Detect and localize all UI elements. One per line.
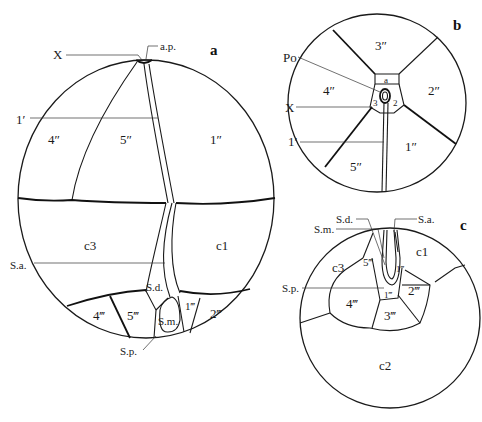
- label-3pp: 3″: [375, 38, 387, 53]
- annotation-1prime: 1′: [16, 112, 26, 127]
- sulcus: [382, 230, 400, 285]
- panel-b: 3″ 4″ 2″ 5″ 1″ a 3 2 Po X 1′ b: [283, 14, 466, 192]
- annotation-x: X: [285, 100, 295, 115]
- annotation-sm: S.m.: [314, 223, 334, 235]
- label-1ppp-upper: 1‴: [396, 264, 405, 274]
- panel-a-outline: [18, 60, 274, 338]
- label-c3: c3: [332, 260, 344, 275]
- annotation-sa: S.a.: [418, 213, 435, 225]
- label-4ppp: 4‴: [346, 296, 359, 311]
- annotation-x: X: [53, 47, 63, 62]
- suture-4-5: [72, 62, 137, 200]
- panel-letter-b: b: [453, 17, 461, 33]
- label-5pp: 5″: [350, 159, 362, 174]
- annotation-1prime: 1′: [288, 134, 298, 149]
- label-5ppp: 5‴: [127, 308, 140, 323]
- apical-pore-po: [380, 89, 390, 103]
- label-4ppp: 4‴: [93, 308, 106, 323]
- label-1pp: 1″: [210, 132, 222, 147]
- panel-letter-a: a: [210, 42, 218, 58]
- annotation-sd: S.d.: [146, 281, 163, 293]
- label-2: 2: [393, 98, 398, 108]
- panel-letter-c: c: [460, 217, 467, 233]
- plate-1prime-right: [149, 64, 174, 203]
- label-c1: c1: [216, 238, 228, 253]
- label-3: 3: [373, 98, 378, 108]
- annotation-po: Po: [283, 50, 297, 65]
- label-1ppp: 1‴: [185, 300, 196, 312]
- label-5ppp: 5‴: [363, 256, 374, 268]
- label-4pp: 4″: [323, 83, 335, 98]
- cingulum-upper-left: [18, 198, 166, 203]
- annotation-sp: S.p.: [120, 345, 137, 357]
- panel-c: c3 c1 c2 5‴ 1‴ 2‴ 4‴ 3‴ 1‴ S.d. S.a. S.m…: [282, 213, 480, 408]
- label-2ppp: 2‴: [210, 306, 223, 321]
- annotation-sd: S.d.: [336, 213, 353, 225]
- label-2ppp: 2‴: [408, 283, 421, 298]
- annotation-sa: S.a.: [10, 259, 27, 271]
- label-2pp: 2″: [428, 83, 440, 98]
- annotation-sm: S.m.: [158, 315, 178, 327]
- plate-1prime-left: [144, 64, 168, 203]
- panel-a: 4″ 5″ 1″ c3 c1 4‴ 5‴ 1‴ 2‴ X a.p. a 1′ S…: [10, 40, 275, 357]
- label-4pp: 4″: [48, 132, 60, 147]
- label-a: a: [384, 75, 388, 85]
- annotation-sp: S.p.: [282, 282, 299, 294]
- label-c1: c1: [416, 244, 428, 259]
- label-3ppp: 3‴: [384, 308, 397, 323]
- dinoflagellate-plate-diagram: 4″ 5″ 1″ c3 c1 4‴ 5‴ 1‴ 2‴ X a.p. a 1′ S…: [0, 0, 482, 422]
- annotation-ap: a.p.: [160, 40, 176, 52]
- label-5pp: 5″: [120, 132, 132, 147]
- label-1pp: 1″: [405, 139, 417, 154]
- cingulum-upper-right: [176, 198, 275, 204]
- label-1ppp-lower: 1‴: [384, 290, 393, 300]
- label-c2: c2: [379, 358, 391, 373]
- label-c3: c3: [84, 238, 96, 253]
